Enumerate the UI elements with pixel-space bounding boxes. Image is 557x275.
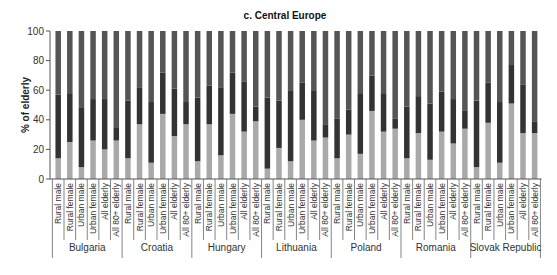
bar-segment [195, 31, 201, 98]
bar-segment [381, 31, 387, 93]
y-tick-label: 20 [33, 144, 45, 155]
bar-segment [451, 143, 457, 179]
x-category-label: Urban male [146, 183, 156, 227]
bar-segment [520, 84, 526, 133]
bar-segment [392, 118, 398, 128]
bar-stack [497, 31, 503, 179]
bar-segment [497, 163, 503, 179]
bar-segment [148, 102, 154, 163]
bar-stack [323, 31, 329, 179]
bar-segment [125, 101, 131, 159]
x-category-label: Urban female [158, 183, 168, 234]
bar-segment [485, 123, 491, 179]
bar-segment [230, 114, 236, 179]
bar-segment [172, 136, 178, 179]
bar-segment [288, 161, 294, 179]
bar-segment [358, 31, 364, 93]
bar-segment [253, 31, 258, 106]
bar-segment [276, 148, 282, 179]
bar-segment [160, 114, 166, 179]
x-category-label: Urban male [355, 183, 365, 227]
bar-segment [90, 141, 96, 179]
bar-segment [462, 111, 468, 129]
bar-segment [532, 133, 538, 179]
bar-segment [55, 31, 61, 95]
bar-segment [323, 124, 329, 137]
bar-segment [114, 141, 120, 179]
group-label: Croatia [141, 242, 174, 253]
bar-segment [195, 98, 201, 162]
x-category-label: All elderly [518, 182, 528, 220]
bar-stack [358, 31, 364, 179]
bar-segment [67, 93, 73, 142]
bar-segment [230, 31, 236, 72]
x-category-label: All elderly [309, 182, 319, 220]
bar-segment [358, 93, 364, 154]
x-category-label: Rural female [135, 183, 145, 231]
bar-segment [207, 86, 213, 124]
x-category-label: All elderly [239, 182, 249, 220]
bar-segment [404, 158, 410, 179]
bar-segment [509, 31, 515, 65]
x-category-label: Rural female [204, 183, 214, 231]
group-label: Lithuania [276, 242, 317, 253]
bar-segment [265, 98, 271, 169]
bar-segment [451, 31, 457, 99]
stacked-bar-chart: c. Central Europe % of elderly 020406080… [0, 0, 557, 275]
bar-segment [392, 31, 398, 118]
bar-segment [137, 87, 143, 124]
bar-segment [79, 31, 85, 108]
bar-segment [218, 155, 224, 179]
bar-stack [509, 31, 515, 179]
bar-segment [334, 118, 340, 158]
x-category-label: All elderly [379, 182, 389, 220]
y-tick-label: 80 [33, 55, 45, 66]
bar-segment [55, 158, 61, 179]
bar-segment [67, 31, 73, 93]
y-tick-label: 60 [33, 85, 45, 96]
x-axis: Rural maleRural femaleUrban maleUrban fe… [50, 179, 542, 258]
bar-segment [346, 109, 352, 134]
x-category-label: Urban female [367, 183, 377, 234]
bar-segment [462, 129, 468, 179]
bar-segment [451, 99, 457, 143]
y-tick-label: 0 [38, 174, 44, 185]
bar-segment [125, 158, 131, 179]
bar-segment [114, 127, 120, 140]
bar-segment [427, 160, 433, 179]
bar-stack [451, 31, 457, 179]
x-category-label: Rural female [483, 183, 493, 231]
bar-segment [369, 111, 375, 179]
bar-stack [276, 31, 282, 179]
bar-segment [253, 106, 258, 121]
y-tick-label: 100 [27, 26, 44, 37]
bar-stack [404, 31, 410, 179]
bar-segment [497, 102, 503, 163]
bar-stack [288, 31, 294, 179]
bar-stack [230, 31, 236, 179]
bar-segment [334, 158, 340, 179]
bar-segment [369, 31, 375, 75]
bar-segment [346, 135, 352, 179]
x-category-label: Urban male [216, 183, 226, 227]
bar-stack [253, 31, 258, 179]
x-category-label: Urban male [76, 183, 86, 227]
x-category-label: Urban female [88, 183, 98, 234]
bar-stack [137, 31, 143, 179]
x-category-label: Urban female [437, 183, 447, 234]
bar-stack [79, 31, 85, 179]
x-category-label: Urban female [297, 183, 307, 234]
bar-segment [276, 101, 282, 148]
bar-segment [241, 132, 247, 179]
group-label: Hungary [208, 242, 246, 253]
y-tick-label: 40 [33, 114, 45, 125]
bar-segment [311, 31, 317, 90]
x-category-label: All elderly [169, 182, 179, 220]
bar-stack [311, 31, 317, 179]
x-category-label: All 80+ elderly [390, 182, 400, 236]
bar-segment [311, 90, 317, 140]
x-category-label: Urban male [286, 183, 296, 227]
bar-stack [207, 31, 213, 179]
bar-segment [90, 99, 96, 140]
x-category-label: All 80+ elderly [530, 182, 540, 236]
